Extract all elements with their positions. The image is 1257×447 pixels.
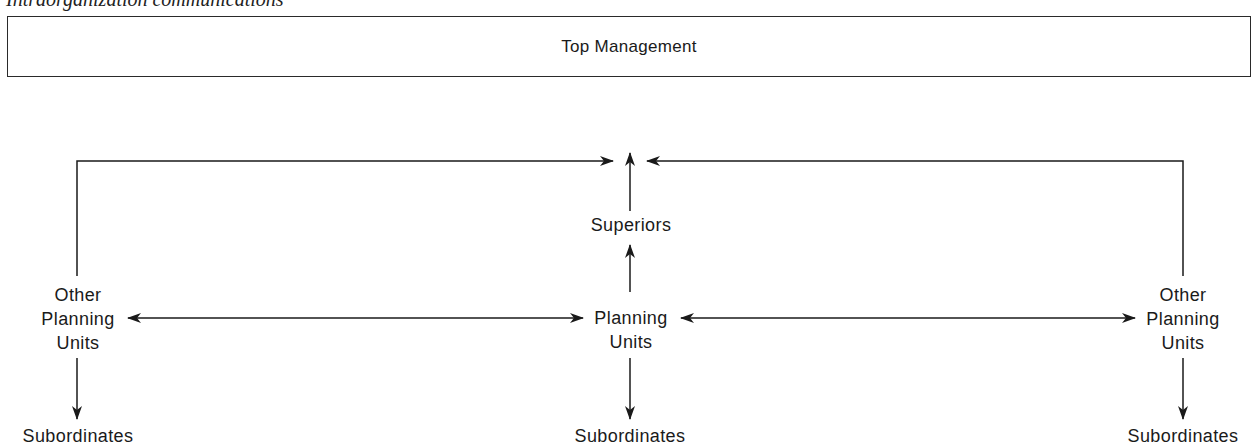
center-unit-line-1: Planning (594, 306, 667, 330)
left-unit-line-2: Planning (41, 307, 114, 331)
left-other-planning-units-node: Other Planning Units (41, 283, 114, 355)
center-unit-line-2: Units (594, 330, 667, 354)
center-planning-units-node: Planning Units (594, 306, 667, 354)
left-unit-line-1: Other (41, 283, 114, 307)
center-subordinates-label: Subordinates (575, 424, 686, 447)
superiors-node: Superiors (591, 213, 672, 237)
left-subordinates-node: Subordinates (23, 424, 134, 447)
right-unit-to-top-connector (647, 161, 1183, 276)
superiors-label: Superiors (591, 213, 672, 237)
right-subordinates-label: Subordinates (1128, 424, 1239, 447)
left-unit-to-top-connector (77, 161, 613, 276)
right-unit-line-1: Other (1146, 283, 1219, 307)
right-subordinates-node: Subordinates (1128, 424, 1239, 447)
left-unit-line-3: Units (41, 331, 114, 355)
center-subordinates-node: Subordinates (575, 424, 686, 447)
left-subordinates-label: Subordinates (23, 424, 134, 447)
right-unit-line-3: Units (1146, 331, 1219, 355)
right-unit-line-2: Planning (1146, 307, 1219, 331)
right-other-planning-units-node: Other Planning Units (1146, 283, 1219, 355)
